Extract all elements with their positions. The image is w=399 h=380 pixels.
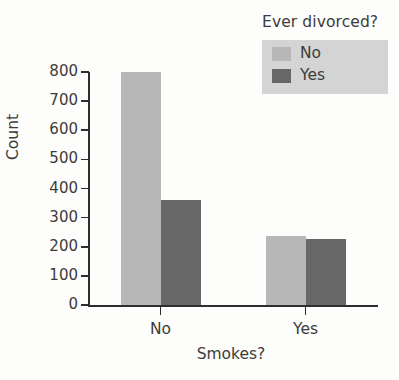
y-tick	[81, 159, 89, 161]
x-axis-title: Smokes?	[197, 345, 266, 363]
bar-yes-no	[266, 236, 306, 305]
x-axis-line	[88, 305, 378, 307]
legend-box: No Yes	[262, 40, 388, 94]
y-tick	[81, 304, 89, 306]
x-tick	[305, 306, 307, 315]
legend-swatch-yes	[272, 69, 291, 83]
legend-label-yes: Yes	[300, 68, 325, 84]
y-axis-title: Count	[4, 114, 22, 160]
legend-swatch-no	[272, 47, 291, 61]
y-tick	[81, 217, 89, 219]
y-tick-label: 600	[49, 122, 78, 137]
bar-yes-yes	[306, 239, 346, 305]
legend-label-no: No	[300, 46, 321, 62]
y-tick	[81, 246, 89, 248]
x-tick-label: Yes	[293, 320, 318, 338]
y-tick-label: 200	[49, 239, 78, 254]
y-tick-label: 700	[49, 93, 78, 108]
y-tick-label: 0	[68, 297, 78, 312]
y-tick	[81, 275, 89, 277]
bar-chart: Ever divorced? No Yes Count Smokes? 0100…	[0, 0, 399, 380]
y-tick	[81, 129, 89, 131]
y-tick-label: 800	[49, 64, 78, 79]
y-tick-label: 300	[49, 210, 78, 225]
y-tick	[81, 100, 89, 102]
x-tick	[160, 306, 162, 315]
y-tick-label: 400	[49, 181, 78, 196]
legend-entry-yes: Yes	[272, 68, 325, 84]
y-tick	[81, 188, 89, 190]
legend-title: Ever divorced?	[262, 13, 378, 31]
y-tick-label: 500	[49, 151, 78, 166]
bar-no-yes	[161, 200, 201, 305]
y-tick	[81, 71, 89, 73]
x-tick-label: No	[150, 320, 171, 338]
bar-no-no	[121, 72, 161, 305]
y-tick-label: 100	[49, 268, 78, 283]
legend-entry-no: No	[272, 46, 321, 62]
